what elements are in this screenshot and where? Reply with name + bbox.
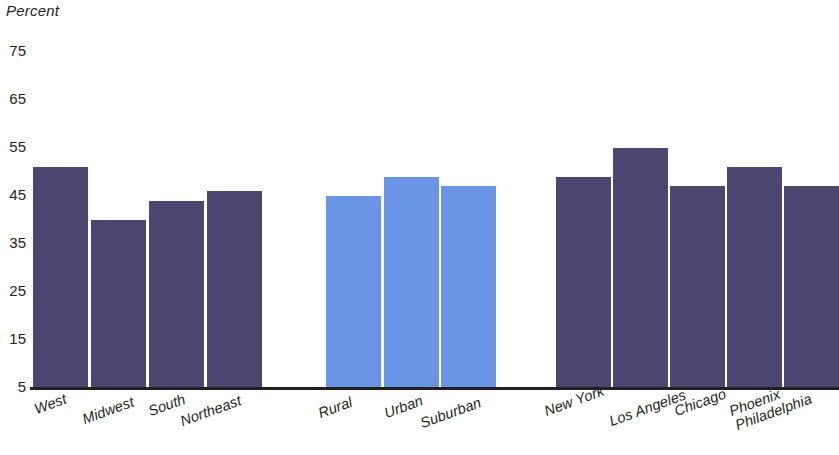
y-tick-55: 55 (0, 140, 26, 154)
x-label-northeast: Northeast (178, 392, 243, 429)
bar-chart: Percent 756555453525155 WestMidwestSouth… (0, 0, 839, 455)
bar-midwest (91, 220, 146, 388)
x-label-rural: Rural (316, 394, 355, 421)
y-tick-75: 75 (0, 44, 26, 58)
bar-rural (326, 196, 381, 388)
y-tick-45: 45 (0, 188, 26, 202)
x-label-west: West (32, 391, 69, 417)
bar-suburban (441, 186, 496, 388)
bar-south (149, 201, 204, 388)
x-label-midwest: Midwest (80, 394, 136, 427)
bar-new-york (556, 177, 611, 388)
bar-los-angeles (613, 148, 668, 388)
bar-chicago (670, 186, 725, 388)
y-tick-5: 5 (0, 380, 26, 394)
bar-philadelphia (784, 186, 839, 388)
bar-phoenix (727, 167, 782, 388)
bar-northeast (207, 191, 262, 388)
bar-west (33, 167, 88, 388)
y-tick-15: 15 (0, 332, 26, 346)
y-tick-65: 65 (0, 92, 26, 106)
x-label-suburban: Suburban (418, 394, 483, 431)
y-tick-25: 25 (0, 284, 26, 298)
y-axis-title: Percent (6, 2, 59, 19)
bar-urban (384, 177, 439, 388)
y-tick-35: 35 (0, 236, 26, 250)
plot-area (33, 28, 839, 388)
